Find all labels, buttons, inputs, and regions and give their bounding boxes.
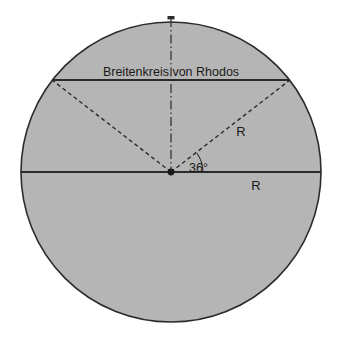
north-pole-tick-marker — [168, 16, 175, 19]
circle-center-point — [168, 169, 175, 176]
diagram-canvas: Breitenkreis von Rhodos R R 36° — [0, 0, 337, 342]
radius-label-diagonal: R — [236, 124, 245, 139]
radius-label-horizontal: R — [251, 178, 260, 193]
angle-label: 36° — [189, 161, 208, 175]
latitude-circle-label: Breitenkreis von Rhodos — [103, 65, 239, 79]
earth-cross-section-diagram: Breitenkreis von Rhodos R R 36° — [0, 0, 337, 342]
